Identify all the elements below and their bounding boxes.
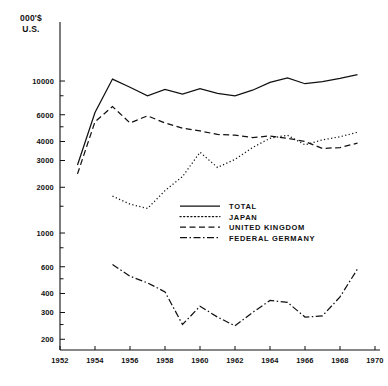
- x-tick-label: 1962: [226, 356, 244, 365]
- series-line: [113, 265, 358, 326]
- legend-label: TOTAL: [229, 202, 257, 211]
- legend-label: UNITED KINGDOM: [229, 223, 305, 232]
- x-axis-ticks: 1952195419561958196019621964196619681970: [51, 346, 384, 365]
- y-tick-label: 2000: [37, 183, 55, 192]
- series-line: [113, 132, 358, 208]
- y-tick-label: 300: [41, 308, 54, 317]
- y-tick-label: 600: [41, 263, 54, 272]
- y-tick-label: 4000: [37, 137, 55, 146]
- x-tick-label: 1970: [366, 356, 384, 365]
- y-tick-label: 10000: [32, 77, 54, 86]
- x-tick-label: 1958: [156, 356, 174, 365]
- series-line: [78, 106, 358, 173]
- x-tick-label: 1952: [51, 356, 69, 365]
- x-tick-label: 1968: [331, 356, 349, 365]
- x-tick-label: 1966: [296, 356, 314, 365]
- chart-svg: 1000060004000300020001000600400300200 19…: [0, 0, 388, 386]
- series-lines: [78, 75, 358, 326]
- chart-legend: TOTALJAPANUNITED KINGDOMFEDERAL GERMANY: [180, 202, 315, 243]
- x-tick-label: 1954: [86, 356, 104, 365]
- y-tick-label: 3000: [37, 156, 55, 165]
- y-tick-label: 400: [41, 289, 54, 298]
- series-line: [78, 75, 358, 165]
- chart-container: 000'$ U.S. 10000600040003000200010006004…: [0, 0, 388, 386]
- y-tick-label: 200: [41, 335, 54, 344]
- legend-label: FEDERAL GERMANY: [229, 234, 315, 243]
- legend-label: JAPAN: [229, 213, 257, 222]
- y-tick-label: 6000: [37, 111, 55, 120]
- x-tick-label: 1956: [121, 356, 139, 365]
- y-tick-label: 1000: [37, 229, 55, 238]
- x-tick-label: 1964: [261, 356, 279, 365]
- x-tick-label: 1960: [191, 356, 209, 365]
